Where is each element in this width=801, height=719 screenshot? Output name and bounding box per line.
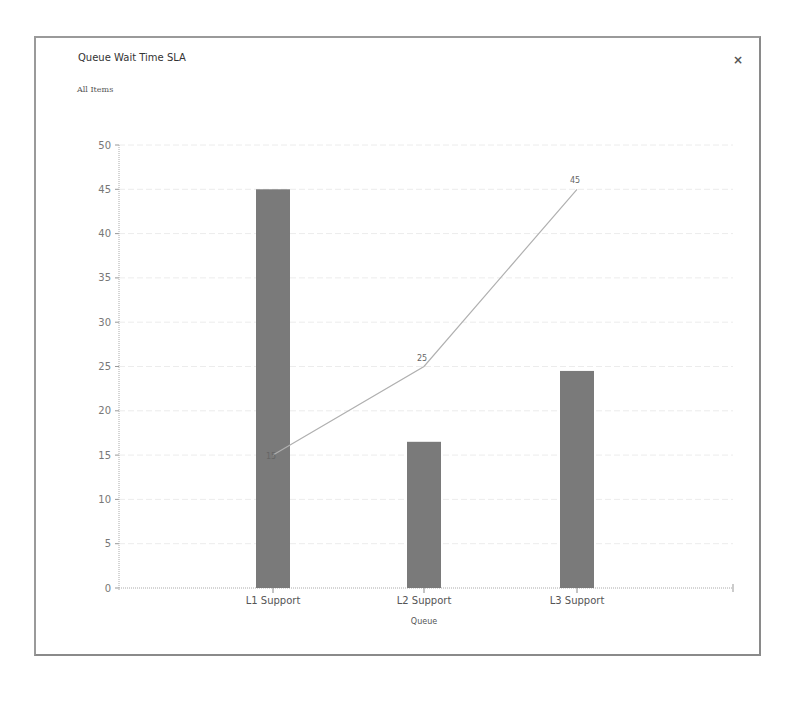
y-tick-label: 15 <box>98 450 111 461</box>
bar-l3-support <box>560 371 594 588</box>
bar-l1-support <box>256 189 290 588</box>
chart-area: 05101520253035404550L1 SupportL2 Support… <box>0 0 801 719</box>
x-axis-title: Queue <box>411 617 437 626</box>
data-label: 25 <box>417 354 427 363</box>
y-tick-label: 45 <box>98 184 111 195</box>
data-label: 45 <box>570 176 580 185</box>
x-tick-label: L2 Support <box>397 595 452 606</box>
y-tick-label: 40 <box>98 228 111 239</box>
y-tick-label: 5 <box>105 538 111 549</box>
y-tick-label: 35 <box>98 272 111 283</box>
y-tick-label: 30 <box>98 317 111 328</box>
y-tick-label: 10 <box>98 494 111 505</box>
x-tick-label: L3 Support <box>550 595 605 606</box>
y-tick-label: 25 <box>98 361 111 372</box>
data-label: 15 <box>266 452 276 461</box>
bar-l2-support <box>407 442 441 588</box>
y-tick-label: 20 <box>98 405 111 416</box>
x-tick-label: L1 Support <box>246 595 301 606</box>
y-tick-label: 0 <box>105 583 111 594</box>
y-tick-label: 50 <box>98 140 111 151</box>
